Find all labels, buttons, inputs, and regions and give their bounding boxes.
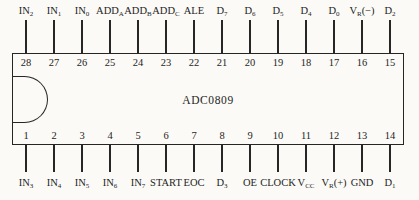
pin-21-number: 21 (217, 57, 228, 69)
pin-label-base: ADD (124, 5, 147, 16)
pin-label-subscript: 2 (392, 10, 396, 18)
pin-22-label: ALE (184, 4, 204, 18)
pin-label-subscript: 6 (114, 182, 118, 190)
pin-label-base: START (150, 177, 182, 188)
pin-label-base: EOC (184, 177, 205, 188)
pin-label-subscript: 4 (308, 10, 312, 18)
pin-label-base: IN (103, 177, 114, 188)
pin-label-base: V (321, 177, 329, 188)
pin-26-lead (81, 20, 82, 53)
pin-25-lead (109, 20, 110, 53)
pin-17-lead (333, 20, 334, 53)
pin-15-label: D2 (384, 4, 395, 18)
pin-13-lead (361, 145, 362, 172)
pin-label-subscript: 3 (224, 182, 228, 190)
pin-8-number: 8 (219, 130, 224, 142)
pin-25-number: 25 (105, 57, 116, 69)
pin-label-subscript: C (175, 10, 180, 18)
pin-7-lead (193, 145, 194, 172)
pin-1-number: 1 (23, 130, 28, 142)
pin-label-base: ALE (184, 5, 204, 16)
pin-17-number: 17 (329, 57, 340, 69)
pin-8-lead (221, 145, 222, 172)
pin-15-number: 15 (385, 57, 396, 69)
pin-label-base: D (272, 5, 280, 16)
pin-label-base: D (244, 5, 252, 16)
pin-label-base: CLOCK (260, 177, 296, 188)
pin-12-label: VR(+) (321, 176, 346, 190)
pin-label-subscript: 3 (30, 182, 34, 190)
pin-13-number: 13 (357, 130, 368, 142)
pin-label-base: D (216, 5, 224, 16)
adc0809-pin-diagram: ADC0809 IN228IN127IN026ADDA25ADDB24ADDC2… (0, 0, 419, 200)
pin-27-number: 27 (49, 57, 60, 69)
pin-11-label: VCC (298, 176, 315, 190)
pin-label-base: IN (131, 177, 142, 188)
pin-14-number: 14 (385, 130, 396, 142)
pin-9-number: 9 (247, 130, 252, 142)
pin-label-subscript: A (119, 10, 124, 18)
pin-27-label: IN1 (47, 4, 62, 18)
pin-2-label: IN4 (47, 176, 62, 190)
pin-3-number: 3 (79, 130, 84, 142)
pin-label-base: D (328, 5, 336, 16)
pin-11-lead (305, 145, 306, 172)
pin-5-number: 5 (135, 130, 140, 142)
pin-label-subscript: 7 (142, 182, 146, 190)
pin-23-lead (165, 20, 166, 53)
pin-label-subscript: 0 (86, 10, 90, 18)
pin-25-label: ADDA (96, 4, 124, 18)
pin-28-lead (25, 20, 26, 53)
pin-9-lead (249, 145, 250, 172)
pin-label-base: GND (351, 177, 374, 188)
pin-23-label: ADDC (152, 4, 179, 18)
pin-5-lead (137, 145, 138, 172)
pin-label-subscript: 2 (30, 10, 34, 18)
pin-9-label: OE (243, 176, 257, 190)
pin-label-base: IN (19, 177, 30, 188)
pin-label-subscript: B (147, 10, 152, 18)
pin-28-number: 28 (21, 57, 32, 69)
pin-14-lead (389, 145, 390, 172)
pin-5-label: IN7 (131, 176, 146, 190)
pin-label-subscript: 5 (280, 10, 284, 18)
pin-20-label: D6 (244, 4, 255, 18)
pin-label-base: OE (243, 177, 257, 188)
pin-4-lead (109, 145, 110, 172)
pin-label-subscript: 1 (392, 182, 396, 190)
pin-2-lead (53, 145, 54, 172)
pin-12-lead (333, 145, 334, 172)
pin-label-suffix: (−) (362, 5, 375, 16)
pin-label-base: IN (47, 177, 58, 188)
pin-8-label: D3 (216, 176, 227, 190)
pin-12-number: 12 (329, 130, 340, 142)
pin-label-base: D (384, 177, 392, 188)
pin-1-label: IN3 (19, 176, 34, 190)
pin-label-subscript: 0 (336, 10, 340, 18)
pin-2-number: 2 (51, 130, 56, 142)
pin-7-number: 7 (191, 130, 196, 142)
pin-15-lead (389, 20, 390, 53)
pin-22-lead (193, 20, 194, 53)
pin-label-base: V (349, 5, 357, 16)
pin-6-label: START (150, 176, 182, 190)
pin-16-lead (361, 20, 362, 53)
pin-6-lead (165, 145, 166, 172)
pin-10-lead (277, 145, 278, 172)
pin-label-base: V (298, 177, 306, 188)
pin-22-number: 22 (189, 57, 200, 69)
pin-label-subscript: CC (305, 182, 314, 190)
pin-26-number: 26 (77, 57, 88, 69)
pin-17-label: D0 (328, 4, 339, 18)
pin-28-label: IN2 (19, 4, 34, 18)
pin-label-base: IN (47, 5, 58, 16)
pin-21-lead (221, 20, 222, 53)
pin-1-lead (25, 145, 26, 172)
pin-24-number: 24 (133, 57, 144, 69)
pin-4-number: 4 (107, 130, 112, 142)
pin-11-number: 11 (301, 130, 311, 142)
pin-14-label: D1 (384, 176, 395, 190)
pin-24-lead (137, 20, 138, 53)
pin-20-number: 20 (245, 57, 256, 69)
pin-16-number: 16 (357, 57, 368, 69)
